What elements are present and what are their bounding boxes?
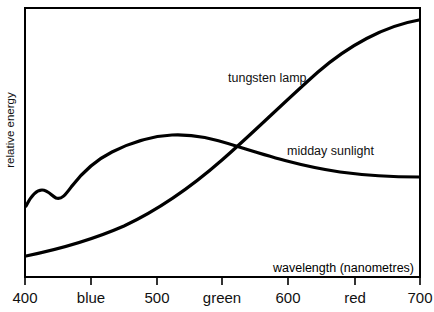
x-tick-label-700: 700: [407, 289, 432, 306]
chart-page: relative energy 400 blue 500 green 600 r…: [0, 0, 434, 312]
x-tick-label-500: 500: [144, 289, 169, 306]
tungsten-lamp-label: tungsten lamp: [228, 71, 307, 85]
midday-sunlight-label: midday sunlight: [287, 144, 374, 158]
x-tick-label-600: 600: [275, 289, 300, 306]
y-axis-title: relative energy: [4, 92, 16, 168]
x-tick-label-green: green: [203, 289, 241, 306]
spectral-power-distribution-chart: relative energy 400 blue 500 green 600 r…: [0, 0, 434, 312]
x-tick-label-400: 400: [12, 289, 37, 306]
x-axis-title: wavelength (nanometres): [272, 261, 414, 275]
x-tick-label-red: red: [344, 289, 366, 306]
x-tick-label-blue: blue: [77, 289, 105, 306]
